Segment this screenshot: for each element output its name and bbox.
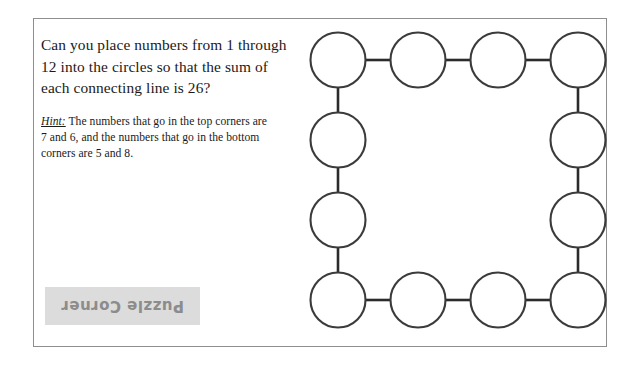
watermark-label: Puzzle Corner: [45, 287, 200, 325]
circle-shape[interactable]: [551, 193, 606, 248]
puzzle-diagram: [295, 18, 608, 347]
text-column: Can you place numbers from 1 through 12 …: [41, 34, 291, 162]
circle-shape[interactable]: [551, 113, 606, 168]
hint-text: The numbers that go in the top corners a…: [41, 115, 267, 160]
puzzle-circle-top-edge-1[interactable]: [391, 33, 446, 88]
puzzle-question: Can you place numbers from 1 through 12 …: [41, 34, 291, 99]
puzzle-hint: Hint: The numbers that go in the top cor…: [41, 114, 273, 163]
circle-shape[interactable]: [551, 33, 606, 88]
hint-label: Hint:: [41, 115, 66, 128]
circle-shape[interactable]: [311, 273, 366, 328]
puzzle-page: Can you place numbers from 1 through 12 …: [0, 0, 637, 367]
circle-shape[interactable]: [311, 33, 366, 88]
puzzle-circle-top-left-corner[interactable]: [311, 33, 366, 88]
puzzle-corner-watermark: Puzzle Corner: [45, 287, 200, 325]
circle-shape[interactable]: [471, 33, 526, 88]
circle-shape[interactable]: [391, 33, 446, 88]
puzzle-circle-top-right-corner[interactable]: [551, 33, 606, 88]
puzzle-circle-bottom-right-corner[interactable]: [551, 273, 606, 328]
puzzle-circle-bottom-edge-1[interactable]: [391, 273, 446, 328]
puzzle-circle-right-edge-2[interactable]: [551, 193, 606, 248]
puzzle-circle-bottom-left-corner[interactable]: [311, 273, 366, 328]
puzzle-circle-left-edge-1[interactable]: [311, 113, 366, 168]
circle-shape[interactable]: [391, 273, 446, 328]
puzzle-circle-bottom-edge-2[interactable]: [471, 273, 526, 328]
circles-group: [311, 33, 606, 328]
puzzle-diagram-svg: [295, 18, 608, 347]
puzzle-circle-left-edge-2[interactable]: [311, 193, 366, 248]
circle-shape[interactable]: [471, 273, 526, 328]
circle-shape[interactable]: [311, 193, 366, 248]
connector-lines-group: [338, 60, 578, 300]
puzzle-circle-right-edge-1[interactable]: [551, 113, 606, 168]
circle-shape[interactable]: [311, 113, 366, 168]
puzzle-circle-top-edge-2[interactable]: [471, 33, 526, 88]
circle-shape[interactable]: [551, 273, 606, 328]
